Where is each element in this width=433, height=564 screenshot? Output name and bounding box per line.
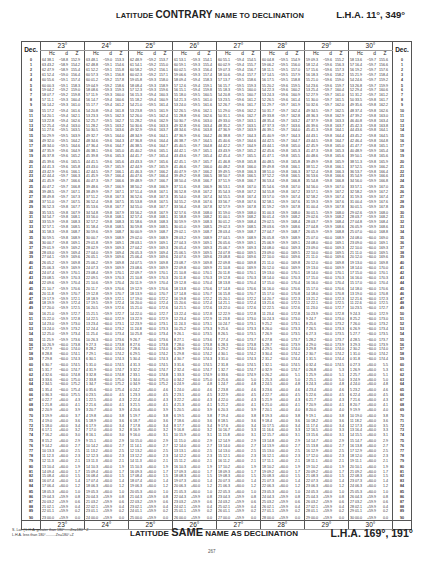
cell-hc: 2 20.9 [42,408,59,413]
cell-d: +60.0 [235,484,247,489]
zn-rule-line1: S. Lat. { L.H.A. greater than 180°......… [12,528,88,533]
table-cell: 20 12.0−60.0169.6 [349,255,393,260]
cell-d: −59.8 [59,230,71,235]
cell-d: −59.7 [279,103,291,108]
cell-d: −59.7 [147,179,159,184]
cell-z: 1.2 [203,484,212,489]
subheader-hc: Hc [352,51,369,57]
cell-hc: 2 24.5 [262,382,279,387]
table-cell: 21 10.6−59.9170.4 [85,281,129,286]
cell-hc: 20 06.3 [174,484,191,489]
cell-hc: 11 23.0 [306,306,323,311]
cell-d: +60.0 [59,408,71,413]
subheader-hc: Hc [308,51,325,57]
cell-d: −59.8 [279,179,291,184]
table-cell: 9 16.0+60.03.1 [129,433,173,438]
page-title-top: LATITUDE CONTRARY NAME TO DECLINATION [116,9,304,20]
cell-d: −59.7 [147,154,159,159]
cell-hc: 25 00.0 [130,516,147,521]
cell-hc: 16 20.5 [86,306,103,311]
table-cell: 56 14.2−59.3161.0 [41,103,85,108]
cell-z: 161.9 [291,103,300,108]
table-cell: 48 34.6−59.6163.8 [173,128,217,133]
cell-d: +60.0 [191,484,203,489]
cell-d: +60.0 [147,408,159,413]
table-cell: 26 05.9−59.9168.8 [305,230,349,235]
subheader-d: d [149,51,161,57]
table-cell: 25 01.1+59.90.2 [173,509,217,514]
cell-d: −59.6 [147,128,159,133]
cell-d: +60.0 [323,433,335,438]
cell-hc: 55 21.0 [306,78,323,83]
table-cell: 44 41.7−59.7165.4 [129,154,173,159]
table-cell: 1 34.7−60.0175.2 [85,382,129,387]
cell-d: −60.0 [191,281,203,286]
cell-d: −59.9 [103,306,115,311]
table-cell: 52 26.7−59.6161.7 [217,103,261,108]
cell-z: 165.6 [335,154,344,159]
table-cell: 27 04.1−59.9169.6 [41,255,85,260]
table-cell: 38 50.4−59.8166.7 [173,179,217,184]
cell-d: +60.0 [103,408,115,413]
subheader-d: d [193,51,205,57]
cell-z: 175.2 [159,382,168,387]
cell-z: 0.2 [71,509,80,514]
cell-hc: 5 20.5 [174,408,191,413]
cell-d: −60.0 [235,332,247,337]
subheader-z: Z [293,51,302,57]
cell-d: −60.0 [235,281,247,286]
cell-d: +60.0 [235,459,247,464]
column-subheaders: HcdZ [41,51,85,58]
cell-d: −59.9 [103,281,115,286]
cell-hc: 51 27.6 [42,128,59,133]
table-cell: 12 25.0−59.9173.4 [41,332,85,337]
cell-d: +60.0 [367,433,379,438]
cell-d: +59.9 [59,509,71,514]
table-cell: 12 22.5−60.0172.6 [261,306,305,311]
cell-hc: 36 52.3 [42,205,59,210]
cell-z: 1.2 [291,484,300,489]
cell-hc: 50 32.6 [306,103,323,108]
cell-hc: 30 01.5 [350,205,367,210]
cell-hc: 24 01.1 [130,509,147,514]
cell-z: 3.0 [115,433,124,438]
cell-d: −60.0 [235,306,247,311]
cell-hc: 9 16.0 [130,433,147,438]
subheader-z: Z [381,51,390,57]
cell-z: 4.8 [379,382,388,387]
table-cell: 16 20.5−59.9172.6 [85,306,129,311]
cell-hc: 59 05.8 [130,78,147,83]
table-cell: 10 25.8−60.0173.4 [129,332,173,337]
cell-z: 1.2 [335,484,344,489]
cell-d: +59.9 [191,509,203,514]
cell-hc: 26 01.1 [218,509,235,514]
cell-d: −60.0 [147,306,159,311]
cell-d: −59.7 [323,103,335,108]
table-cell: 39 50.1−59.8165.6 [349,154,393,159]
cell-hc: 13 11.3 [86,459,103,464]
cell-z: 166.6 [71,179,80,184]
cell-z: 3.1 [203,433,212,438]
table-cell: 37 51.9−59.8166.7 [217,179,261,184]
cell-hc: 22 06.3 [262,484,279,489]
cell-hc: 34 56.0 [350,179,367,184]
cell-z: 168.8 [379,230,388,235]
cell-d: −59.9 [147,255,159,260]
table-cell: 27 01.1+59.90.2 [261,509,305,514]
cell-z: 173.4 [115,332,124,337]
cell-z: 161.0 [71,103,80,108]
table-cell: 7 29.8−60.0174.3 [41,357,85,362]
cell-hc: 45 39.8 [86,154,103,159]
cell-d: +60.0 [191,459,203,464]
cell-d: −59.9 [279,205,291,210]
cell-hc: 31 00.4 [306,205,323,210]
cell-hc: 2 34.5 [42,382,59,387]
cell-z: 0.0 [379,516,388,521]
cell-d: −59.9 [59,306,71,311]
cell-d: −59.2 [103,78,115,83]
cell-hc: 26 05.9 [306,230,323,235]
cell-d: −59.4 [191,78,203,83]
latitude-column-header: 26° [173,42,217,51]
subheader-hc: Hc [132,51,149,57]
table-cell: 30 59.6−59.9168.7 [85,230,129,235]
